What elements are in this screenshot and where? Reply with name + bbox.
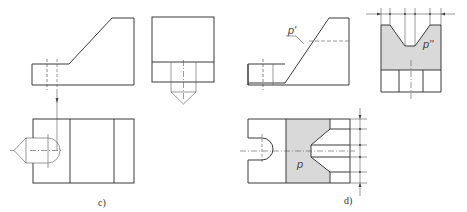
label-p: p bbox=[296, 158, 303, 170]
panel-c-top-view bbox=[10, 119, 134, 183]
label-p-double-prime: p'' bbox=[422, 38, 434, 50]
panel-c-front-view bbox=[32, 18, 134, 150]
panel-d-top-view: p bbox=[240, 108, 367, 196]
panel-c-side-view bbox=[152, 17, 214, 104]
label-p-prime: p' bbox=[287, 24, 297, 36]
engineering-drawing: c) p' bbox=[0, 0, 467, 212]
panel-c-caption: c) bbox=[98, 197, 106, 209]
panel-d-side-view: p'' bbox=[366, 8, 455, 100]
panel-d-front-view: p' bbox=[248, 18, 349, 90]
panel-d-caption: d) bbox=[344, 195, 352, 207]
panel-d: p' p'' bbox=[240, 8, 455, 207]
panel-c: c) bbox=[10, 17, 214, 209]
